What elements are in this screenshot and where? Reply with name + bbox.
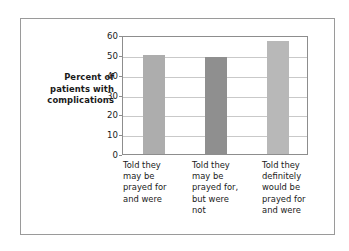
y-tick-label-0: 0 — [100, 151, 118, 160]
x-category-label-1: Told theymay beprayed forand were — [123, 160, 167, 205]
y-tick-label-60: 60 — [100, 32, 118, 41]
x-category-2-line-3: prayed for, — [192, 182, 238, 193]
x-category-3-line-4: prayed for — [262, 194, 306, 205]
x-category-3-line-2: definitely — [262, 171, 306, 182]
bar-2[interactable] — [205, 57, 227, 154]
x-category-1-line-1: Told they — [123, 160, 167, 171]
x-category-2-line-1: Told they — [192, 160, 238, 171]
y-tick-mark-0 — [119, 155, 122, 156]
x-category-2-line-2: may be — [192, 171, 238, 182]
x-category-1-line-3: prayed for — [123, 182, 167, 193]
x-category-3-line-5: and were — [262, 205, 306, 216]
y-tick-label-50: 50 — [100, 52, 118, 61]
x-axis-category-labels: Told theymay beprayed forand wereTold th… — [122, 160, 322, 232]
x-category-2-line-5: not — [192, 205, 238, 216]
x-category-3-line-1: Told they — [262, 160, 306, 171]
y-tick-label-20: 20 — [100, 111, 118, 120]
x-category-1-line-2: may be — [123, 171, 167, 182]
plot-area — [122, 36, 308, 155]
x-category-2-line-4: but were — [192, 194, 238, 205]
x-category-3-line-3: would be — [262, 182, 306, 193]
x-category-label-2: Told theymay beprayed for,but werenot — [192, 160, 238, 216]
chart-figure: Percent of patients with complications 6… — [0, 0, 349, 251]
x-category-1-line-4: and were — [123, 194, 167, 205]
x-category-label-3: Told theydefinitelywould beprayed forand… — [262, 160, 306, 216]
y-tick-label-10: 10 — [100, 131, 118, 140]
y-tick-label-30: 30 — [100, 91, 118, 100]
y-tick-label-40: 40 — [100, 71, 118, 80]
bar-3[interactable] — [267, 41, 289, 154]
bar-1[interactable] — [143, 55, 165, 154]
y-axis-tick-labels: 6050403020100 — [98, 36, 118, 155]
